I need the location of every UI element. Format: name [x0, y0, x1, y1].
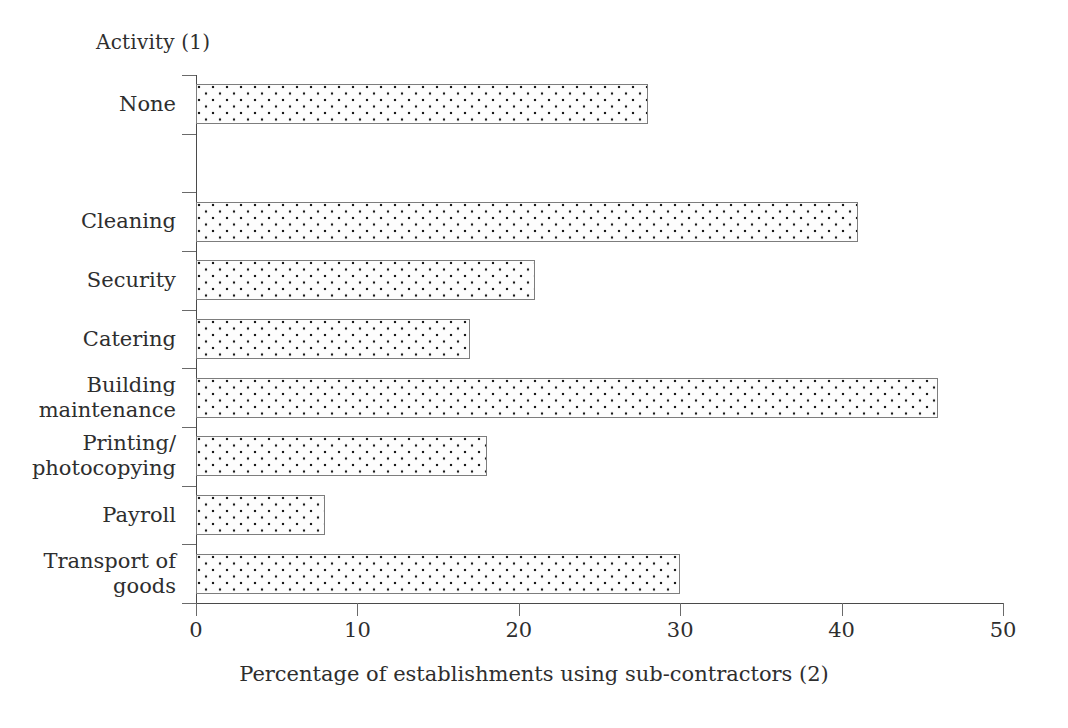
- bar: [196, 319, 470, 359]
- category-label: Catering: [0, 327, 186, 352]
- x-axis-tick: [1003, 603, 1004, 616]
- category-label-line: Catering: [6, 327, 186, 352]
- category-label-line: Building: [6, 373, 186, 398]
- x-axis-line: [196, 603, 1004, 604]
- category-label-line: Transport of: [6, 549, 186, 574]
- x-axis-tick-label: 50: [990, 618, 1017, 642]
- bar: [196, 436, 487, 476]
- x-axis-caption: Percentage of establishments using sub-c…: [0, 662, 1068, 686]
- y-axis-tick: [182, 544, 196, 545]
- category-label: Transport ofgoods: [0, 549, 186, 599]
- bar: [196, 495, 325, 535]
- x-axis-tick-label: 10: [344, 618, 371, 642]
- category-label-line: Payroll: [6, 503, 186, 528]
- bar: [196, 260, 535, 300]
- x-axis-tick: [196, 603, 197, 616]
- category-label-line: Printing/: [6, 431, 186, 456]
- category-label: Printing/photocopying: [0, 431, 186, 481]
- category-label-line: None: [6, 92, 186, 117]
- category-label-line: maintenance: [6, 398, 186, 423]
- x-axis-tick: [357, 603, 358, 616]
- category-label: Buildingmaintenance: [0, 373, 186, 423]
- y-axis-tick: [182, 192, 196, 193]
- y-axis-tick: [182, 75, 196, 76]
- y-axis-tick: [182, 368, 196, 369]
- x-axis-tick: [680, 603, 681, 616]
- y-axis-title: Activity (1): [96, 30, 210, 54]
- bar: [196, 554, 680, 594]
- y-axis-tick: [182, 310, 196, 311]
- bar-chart: Activity (1) NoneCleaningSecurityCaterin…: [0, 0, 1068, 728]
- category-label-line: Cleaning: [6, 209, 186, 234]
- category-label: Cleaning: [0, 209, 186, 234]
- category-label-line: Security: [6, 268, 186, 293]
- category-label: Security: [0, 268, 186, 293]
- bar: [196, 84, 648, 124]
- y-axis-tick: [182, 486, 196, 487]
- x-axis-tick: [842, 603, 843, 616]
- bar: [196, 378, 938, 418]
- category-label-line: photocopying: [6, 456, 186, 481]
- y-axis-tick: [182, 134, 196, 135]
- y-axis-tick: [182, 427, 196, 428]
- category-label: Payroll: [0, 503, 186, 528]
- category-label-line: goods: [6, 574, 186, 599]
- category-label: None: [0, 92, 186, 117]
- y-axis-tick: [182, 251, 196, 252]
- x-axis-tick: [519, 603, 520, 616]
- x-axis-tick-label: 40: [828, 618, 855, 642]
- x-axis-tick-label: 0: [189, 618, 202, 642]
- x-axis-tick-label: 20: [505, 618, 532, 642]
- x-axis-tick-label: 30: [667, 618, 694, 642]
- y-axis-tick: [182, 603, 196, 604]
- bar: [196, 202, 858, 242]
